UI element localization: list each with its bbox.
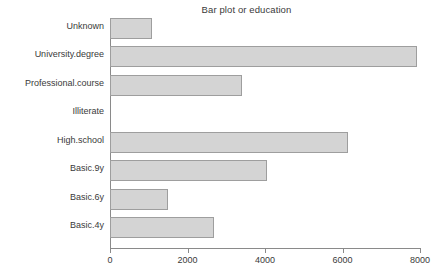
- y-axis-label-illiterate: Illiterate: [0, 106, 104, 116]
- x-axis-tick-mark: [420, 249, 421, 253]
- x-axis-tick-mark: [265, 249, 266, 253]
- y-axis-category-labels: Unknown University.degree Professional.c…: [0, 18, 104, 248]
- cropped-caption-remnant: [8, 268, 428, 275]
- bar-basic-6y: [110, 189, 168, 210]
- y-axis-label-basic-6y: Basic.6y: [0, 192, 104, 202]
- x-axis-tick-label: 6000: [332, 255, 352, 265]
- y-axis-label-unknown: Unknown: [0, 21, 104, 31]
- bar-professional-course: [110, 75, 242, 96]
- y-axis-label-basic-9y: Basic.9y: [0, 163, 104, 173]
- bar-basic-9y: [110, 160, 267, 181]
- plot-area: [110, 18, 420, 248]
- y-axis-label-high-school: High.school: [0, 135, 104, 145]
- chart-title: Bar plot or education: [0, 4, 433, 15]
- x-axis-tick-mark: [343, 249, 344, 253]
- x-axis-tick-mark: [110, 249, 111, 253]
- bar-unknown: [110, 18, 152, 39]
- x-axis-tick-label: 2000: [177, 255, 197, 265]
- y-axis-label-professional-course: Professional.course: [0, 78, 104, 88]
- bar-chart: Bar plot or education Unknown University…: [0, 0, 433, 275]
- bar-university-degree: [110, 46, 417, 67]
- x-axis-tick-label: 4000: [255, 255, 275, 265]
- bar-basic-4y: [110, 217, 214, 238]
- y-axis-label-university-degree: University.degree: [0, 49, 104, 59]
- bar-high-school: [110, 132, 348, 153]
- y-axis-label-basic-4y: Basic.4y: [0, 220, 104, 230]
- x-axis-tick-mark: [188, 249, 189, 253]
- x-axis-tick-label: 8000: [410, 255, 430, 265]
- x-axis-tick-label: 0: [107, 255, 112, 265]
